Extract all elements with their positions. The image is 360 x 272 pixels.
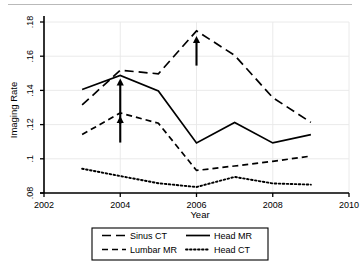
y-tick-label-0: .08 xyxy=(25,187,35,200)
arrow-annotations xyxy=(117,36,200,143)
arrow-head xyxy=(193,36,200,43)
imaging-rate-line-chart: .08.1.12.14.16.18 20022004200620082010 I… xyxy=(0,0,360,272)
x-axis-title: Year xyxy=(190,209,209,220)
y-axis-tick-labels: .08.1.12.14.16.18 xyxy=(25,16,35,200)
legend-label-head-ct: Head CT xyxy=(214,245,251,255)
chart-legend: Sinus CTHead MRLumbar MRHead CT xyxy=(92,228,268,260)
top-divider-rule xyxy=(8,4,352,5)
y-tick-label-1: .1 xyxy=(25,155,35,163)
arrow-head xyxy=(117,78,124,85)
y-axis-title: Imaging Rate xyxy=(8,82,19,139)
y-tick-label-4: .16 xyxy=(25,50,35,63)
y-tick-label-2: .12 xyxy=(25,118,35,131)
legend-label-head-mr: Head MR xyxy=(214,231,253,241)
legend-label-sinus-ct: Sinus CT xyxy=(130,231,168,241)
y-tick-label-5: .18 xyxy=(25,16,35,29)
x-tick-label-0: 2002 xyxy=(34,200,54,210)
y-tick-label-3: .14 xyxy=(25,84,35,97)
x-tick-label-1: 2004 xyxy=(110,200,130,210)
legend-label-lumbar-mr: Lumbar MR xyxy=(130,245,178,255)
arrow-head xyxy=(117,116,124,123)
arrow-up-lumbar-mr-2004 xyxy=(117,116,124,143)
arrow-up-sinus-ct-2006 xyxy=(193,36,200,66)
chart-figure: .08.1.12.14.16.18 20022004200620082010 I… xyxy=(0,0,360,272)
x-tick-label-4: 2010 xyxy=(339,200,359,210)
x-tick-label-3: 2008 xyxy=(263,200,283,210)
